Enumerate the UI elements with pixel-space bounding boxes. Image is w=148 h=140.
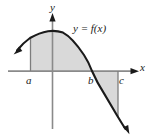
x-axis-arrowhead <box>131 68 140 74</box>
shaded-region-above-axis <box>30 31 92 71</box>
x-tick-label-c: c <box>119 75 124 86</box>
y-axis-label: y <box>50 2 55 13</box>
x-axis-label: x <box>140 62 145 73</box>
y-axis-arrowhead <box>49 13 55 22</box>
integral-area-figure: y x a b c y = f(x) <box>0 0 148 140</box>
figure-canvas <box>0 0 148 140</box>
function-curve-label: y = f(x) <box>73 23 106 34</box>
x-tick-label-b: b <box>88 75 94 86</box>
x-tick-label-a: a <box>26 75 32 86</box>
